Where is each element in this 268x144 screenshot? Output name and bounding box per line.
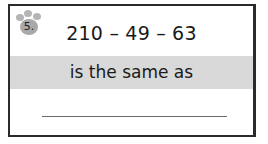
answer-blank-line[interactable] — [42, 116, 227, 117]
paw-toe — [33, 13, 41, 20]
problem-card: 5. 210 – 49 – 63 is the same as — [8, 4, 256, 137]
prompt-band: is the same as — [10, 56, 253, 89]
prompt-text: is the same as — [70, 62, 193, 82]
math-expression: 210 – 49 – 63 — [10, 22, 253, 44]
paw-toe — [24, 10, 32, 17]
